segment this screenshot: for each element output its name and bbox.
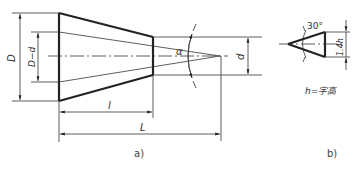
label-alpha: α (176, 46, 183, 57)
figure-a: D D−d α d l (6, 13, 262, 159)
label-D: D (6, 54, 17, 62)
label-l: l (108, 100, 111, 111)
label-30-degree: 30° (307, 21, 323, 31)
dimension-1-4h: 1.4h (325, 20, 350, 70)
cone-outline (59, 13, 153, 101)
construction-lines (48, 32, 262, 82)
caption-a: a) (134, 148, 144, 159)
label-d: d (235, 53, 246, 60)
note-h-char-height: h=字高 (305, 86, 338, 96)
dimension-d: d (235, 38, 248, 74)
label-L: L (140, 122, 146, 133)
label-D-minus-d: D−d (27, 47, 37, 67)
dimension-l: l (59, 75, 153, 142)
taper-symbol (279, 32, 344, 57)
dimension-D-minus-d: D−d (27, 32, 59, 82)
taper-symbol-drawing: D D−d α d l (0, 0, 356, 171)
caption-b: b) (327, 148, 337, 159)
figure-b: 30° 1.4h h=字高 b) (279, 20, 350, 159)
label-1-4h: 1.4h (336, 38, 345, 56)
